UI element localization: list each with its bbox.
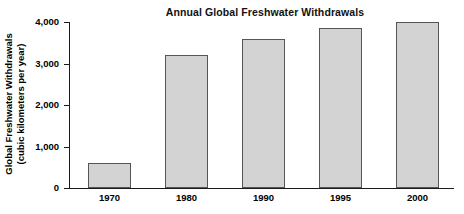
x-tick-label-2000: 2000: [407, 192, 428, 203]
y-axis-title-text: Global Freshwater Withdrawals (cubic kil…: [3, 18, 26, 190]
x-tick-label-1980: 1980: [176, 192, 197, 203]
bar-1990: [242, 39, 285, 188]
y-axis-title: Global Freshwater Withdrawals (cubic kil…: [0, 18, 28, 190]
bar-1980: [165, 55, 208, 188]
bar-1995: [319, 28, 362, 188]
chart-title: Annual Global Freshwater Withdrawals: [70, 6, 460, 18]
y-axis-title-line-2: (cubic kilometers per year): [14, 18, 26, 190]
bar-series: 19701980199019952000: [69, 22, 454, 188]
x-tick-label-1990: 1990: [253, 192, 274, 203]
bar-2000: [396, 22, 439, 188]
plot-area: 01,0002,0003,0004,000 197019801990199520…: [69, 22, 454, 188]
y-tick-label-4: 4,000: [35, 16, 59, 27]
bar-group-1995: 1995: [319, 22, 362, 188]
bar-group-1970: 1970: [88, 22, 131, 188]
y-tick-label-0: 0: [54, 182, 59, 193]
chart-figure: Annual Global Freshwater Withdrawals Glo…: [0, 0, 464, 214]
y-tick-label-1: 1,000: [35, 141, 59, 152]
x-tick-label-1995: 1995: [330, 192, 351, 203]
y-axis-title-line-1: Global Freshwater Withdrawals: [3, 18, 15, 190]
bar-1970: [88, 163, 131, 188]
bar-group-2000: 2000: [396, 22, 439, 188]
bar-group-1980: 1980: [165, 22, 208, 188]
x-tick-label-1970: 1970: [99, 192, 120, 203]
x-axis-line: [69, 188, 454, 189]
y-tick-label-2: 2,000: [35, 99, 59, 110]
bar-group-1990: 1990: [242, 22, 285, 188]
y-tick-0: 0: [64, 188, 70, 189]
y-tick-label-3: 3,000: [35, 58, 59, 69]
